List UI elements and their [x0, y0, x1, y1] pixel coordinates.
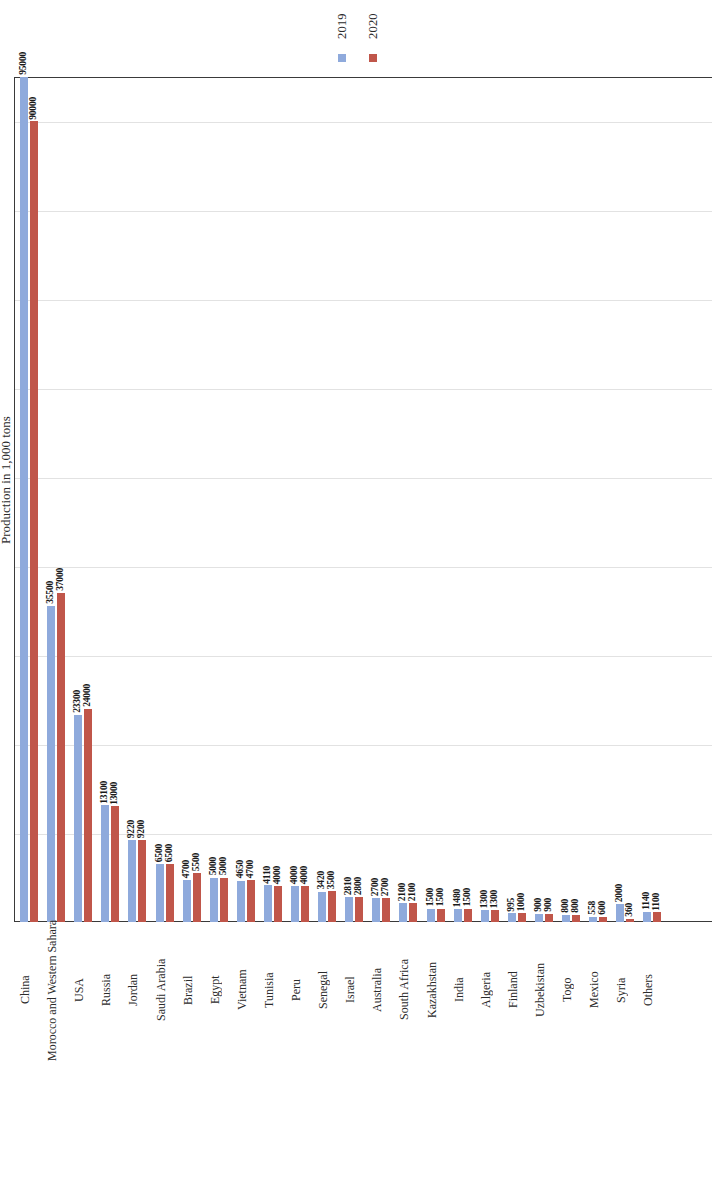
bar-value-label: 90000	[29, 97, 39, 120]
bar-2019: 800	[562, 915, 570, 922]
bar-2019: 9220	[128, 840, 136, 922]
bar-value-label: 4000	[300, 866, 310, 884]
bar-2019: 2000	[616, 904, 624, 922]
category-label: China	[18, 926, 40, 1054]
bar-value-label: 4700	[182, 860, 192, 878]
bar-group: 47005500	[181, 77, 204, 922]
bar-group: 46504700	[235, 77, 258, 922]
bar-value-label: 4110	[263, 866, 273, 884]
bar-value-label: 900	[544, 898, 554, 912]
bar-value-label: 6500	[165, 844, 175, 862]
category-label: South Africa	[397, 926, 419, 1054]
bar-value-label: 1300	[480, 890, 490, 908]
category-label: Russia	[99, 926, 121, 1054]
bar-group: 27002700	[370, 77, 393, 922]
legend-label-2020: 2020	[360, 4, 386, 48]
bar-value-label: 5000	[209, 857, 219, 875]
category-label: Tunisia	[262, 926, 284, 1054]
bar-value-label: 1000	[517, 893, 527, 911]
bar-value-label: 2000	[615, 884, 625, 902]
bar-value-label: 1100	[653, 893, 663, 911]
bar-group: 1310013000	[99, 77, 122, 922]
bar-2019: 2100	[399, 903, 407, 922]
bar-group: 40004000	[289, 77, 312, 922]
bar-2020: 4000	[274, 886, 282, 922]
bar-2020: 1500	[437, 909, 445, 922]
bar-value-label: 2800	[354, 877, 364, 895]
bar-2019: 1300	[481, 910, 489, 922]
bar-value-label: 4650	[236, 860, 246, 878]
category-label: Kazakhstan	[425, 926, 447, 1054]
bar-value-label: 600	[598, 901, 608, 915]
bar-value-label: 4700	[246, 860, 256, 878]
bar-2019: 4650	[237, 881, 245, 922]
bar-2019: 995	[508, 913, 516, 922]
category-label: Jordan	[126, 926, 148, 1054]
bar-2020: 2100	[409, 903, 417, 922]
bars-layer: 9500090000355003700023300240001310013000…	[14, 77, 712, 922]
category-label: Egypt	[208, 926, 230, 1054]
bar-group: 558600	[587, 77, 610, 922]
category-axis-labels: ChinaMorocco and Western SaharaUSARussia…	[14, 926, 712, 1056]
bar-2020: 13000	[111, 806, 119, 922]
bar-group: 15001500	[425, 77, 448, 922]
bar-2020: 1000	[518, 913, 526, 922]
category-label: Syria	[614, 926, 636, 1054]
category-label: Finland	[506, 926, 528, 1054]
bar-value-label: 1480	[453, 889, 463, 907]
bar-2020: 800	[572, 915, 580, 922]
bar-group: 65006500	[154, 77, 177, 922]
bar-value-label: 95000	[19, 52, 29, 75]
bar-2019: 4110	[264, 885, 272, 922]
bar-2019: 4000	[291, 886, 299, 922]
category-label: Togo	[560, 926, 582, 1054]
bar-2020: 900	[545, 914, 553, 922]
bar-2020: 1300	[491, 910, 499, 922]
category-label: Others	[641, 926, 663, 1054]
bar-value-label: 1500	[426, 888, 436, 906]
category-label: Peru	[289, 926, 311, 1054]
bar-group: 3550037000	[45, 77, 68, 922]
bar-2020: 3500	[328, 891, 336, 922]
bar-2020: 4000	[301, 886, 309, 922]
category-label: Mexico	[587, 926, 609, 1054]
category-label: Algeria	[479, 926, 501, 1054]
bar-2020: 2700	[382, 898, 390, 922]
bar-value-label: 1500	[436, 888, 446, 906]
bar-2020: 90000	[30, 121, 38, 922]
bar-group: 800800	[560, 77, 583, 922]
bar-2020: 6500	[166, 864, 174, 922]
bar-group: 50005000	[208, 77, 231, 922]
bar-group: 2000360	[614, 77, 637, 922]
bar-group: 34203500	[316, 77, 339, 922]
bar-value-label: 2100	[409, 883, 419, 901]
bar-2020: 1100	[653, 912, 661, 922]
bar-2020: 5500	[193, 873, 201, 922]
bar-value-label: 995	[507, 898, 517, 912]
bar-2019: 3420	[318, 892, 326, 922]
bar-2019: 1480	[454, 909, 462, 922]
bar-value-label: 1500	[463, 888, 473, 906]
bar-group: 92209200	[126, 77, 149, 922]
bar-2019: 13100	[101, 805, 109, 922]
category-label: Brazil	[181, 926, 203, 1054]
legend-label-2019: 2019	[329, 4, 355, 48]
legend-swatch-2020	[369, 54, 377, 62]
category-label: Uzbekistan	[533, 926, 555, 1054]
chart-legend: 2019 2020	[0, 0, 712, 70]
bar-2020: 1500	[464, 909, 472, 922]
bar-value-label: 5000	[219, 857, 229, 875]
bar-value-label: 900	[534, 898, 544, 912]
category-label: Morocco and Western Sahara	[45, 926, 67, 1054]
bar-2020: 5000	[220, 878, 228, 922]
category-label: India	[452, 926, 474, 1054]
bar-group: 14801500	[452, 77, 475, 922]
bar-group: 13001300	[479, 77, 502, 922]
category-label: Saudi Arabia	[154, 926, 176, 1054]
bar-2019: 35500	[47, 606, 55, 922]
bar-value-label: 9200	[138, 820, 148, 838]
bar-2019: 1500	[427, 909, 435, 922]
bar-2019: 5000	[210, 878, 218, 922]
bar-2019: 2700	[372, 898, 380, 922]
bar-value-label: 37000	[56, 568, 66, 591]
